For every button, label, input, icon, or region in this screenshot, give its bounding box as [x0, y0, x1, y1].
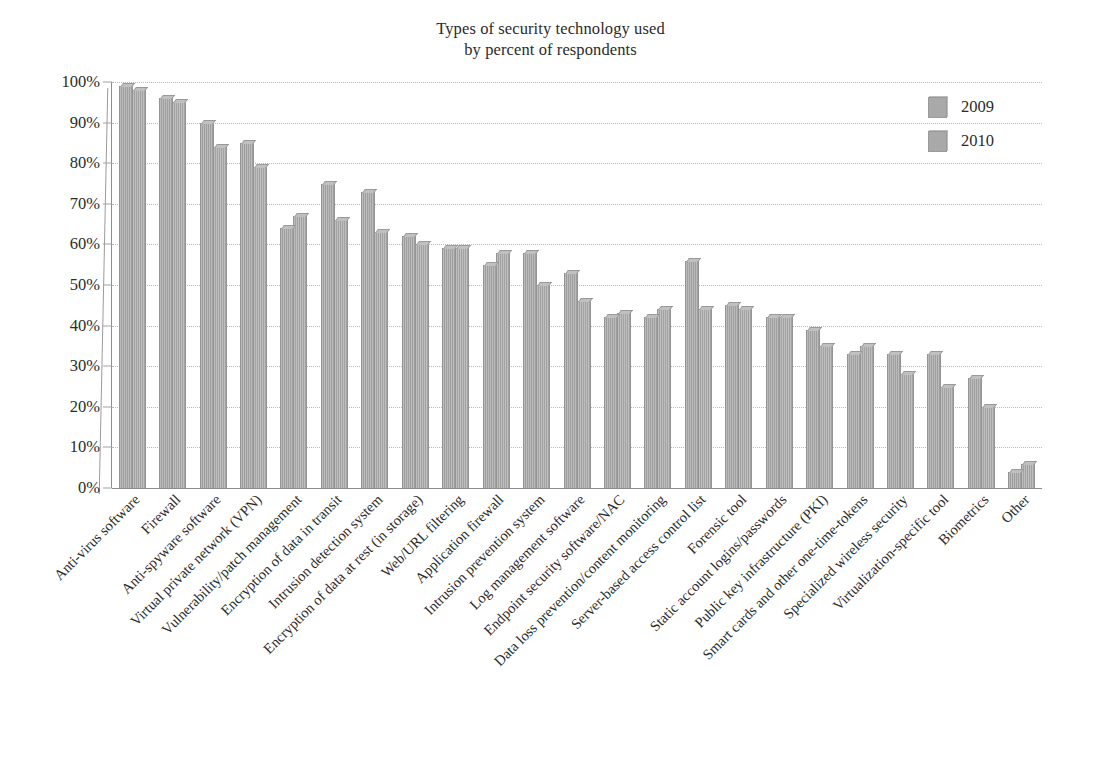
chart-title: Types of security technology used by per…	[0, 18, 1101, 60]
bar-2009	[159, 98, 173, 488]
bar-2010	[1021, 464, 1035, 488]
bar-2010	[981, 407, 995, 488]
bar-2010	[617, 313, 631, 488]
bar-2009	[927, 354, 941, 488]
bar-2009	[402, 236, 416, 488]
bar-2009	[119, 86, 133, 488]
bar-2010	[172, 102, 186, 488]
bar-2009	[483, 265, 497, 488]
bar-2010	[293, 216, 307, 488]
bar-group	[557, 82, 597, 488]
y-axis-tick-mark	[103, 406, 112, 407]
bar-groups	[112, 82, 1042, 488]
bar-2009	[1008, 472, 1022, 488]
bar-group	[516, 82, 556, 488]
bar-group	[597, 82, 637, 488]
bar-2009	[968, 378, 982, 488]
y-axis-tick-mark	[103, 81, 112, 82]
y-axis-tick-label: 0%	[78, 478, 100, 498]
bar-2010	[374, 232, 388, 488]
bar-chart: Types of security technology used by per…	[0, 0, 1101, 769]
y-axis-tick-label: 80%	[70, 153, 100, 173]
bar-group	[1002, 82, 1042, 488]
bar-2010	[577, 301, 591, 488]
bar-2010	[132, 90, 146, 488]
bar-group	[759, 82, 799, 488]
bar-2009	[685, 261, 699, 488]
y-axis-tick-label: 20%	[70, 397, 100, 417]
bar-2009	[442, 248, 456, 488]
bar-2009	[806, 330, 820, 488]
bar-2009	[361, 192, 375, 488]
y-axis-tick-label: 60%	[70, 234, 100, 254]
bar-group	[193, 82, 233, 488]
bar-group	[314, 82, 354, 488]
y-axis-tick-label: 70%	[70, 194, 100, 214]
y-axis-tick-mark	[103, 122, 112, 123]
chart-title-line-1: Types of security technology used	[0, 18, 1101, 39]
bar-2009	[321, 184, 335, 489]
bar-2010	[860, 346, 874, 488]
bar-group	[921, 82, 961, 488]
bar-group	[355, 82, 395, 488]
bar-2010	[536, 285, 550, 488]
bar-group	[638, 82, 678, 488]
y-axis-tick-mark	[103, 203, 112, 204]
bar-group	[233, 82, 273, 488]
bar-2010	[698, 309, 712, 488]
bar-2010	[657, 309, 671, 488]
y-axis-tick-mark	[103, 325, 112, 326]
bar-2010	[334, 220, 348, 488]
bar-2010	[940, 387, 954, 489]
y-axis-tick-mark	[103, 284, 112, 285]
bar-2009	[887, 354, 901, 488]
bar-2009	[604, 317, 618, 488]
bar-2010	[455, 248, 469, 488]
bar-2009	[240, 143, 254, 488]
bar-group	[719, 82, 759, 488]
y-axis-tick-mark	[103, 487, 112, 488]
bar-2010	[819, 346, 833, 488]
bar-group	[880, 82, 920, 488]
y-axis-tick-label: 90%	[70, 113, 100, 133]
bar-2009	[564, 273, 578, 488]
y-axis-tick-label: 50%	[70, 275, 100, 295]
bar-group	[112, 82, 152, 488]
bar-2010	[779, 317, 793, 488]
bar-group	[395, 82, 435, 488]
y-axis-tick-label: 30%	[70, 356, 100, 376]
y-axis-tick-label: 100%	[62, 72, 101, 92]
bar-2009	[847, 354, 861, 488]
bar-2010	[900, 374, 914, 488]
bar-2010	[253, 167, 267, 488]
bar-2010	[496, 253, 510, 488]
chart-title-line-2: by percent of respondents	[0, 39, 1101, 60]
bar-2009	[725, 305, 739, 488]
y-axis-tick-label: 10%	[70, 437, 100, 457]
bar-group	[436, 82, 476, 488]
bar-2009	[644, 317, 658, 488]
bar-2009	[523, 253, 537, 488]
bar-2009	[766, 317, 780, 488]
bar-2010	[213, 147, 227, 488]
bar-group	[152, 82, 192, 488]
bar-2009	[200, 123, 214, 488]
bar-2010	[738, 309, 752, 488]
plot-area: 0%10%20%30%40%50%60%70%80%90%100%	[112, 82, 1042, 488]
bar-group	[961, 82, 1001, 488]
y-axis-tick-label: 40%	[70, 316, 100, 336]
bar-2009	[280, 228, 294, 488]
bar-group	[274, 82, 314, 488]
bar-group	[840, 82, 880, 488]
bar-2010	[415, 244, 429, 488]
bar-group	[678, 82, 718, 488]
bar-group	[476, 82, 516, 488]
bar-group	[799, 82, 839, 488]
gridline	[112, 488, 1042, 489]
